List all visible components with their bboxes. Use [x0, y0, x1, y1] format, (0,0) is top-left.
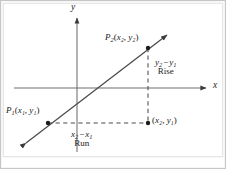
run-term-a-subscript: 2: [75, 133, 78, 140]
point-p2-label: P2(x₂, y₂): [105, 33, 138, 42]
secant-line: [26, 35, 167, 143]
run-term-b-subscript: 1: [89, 133, 92, 140]
point-p1-subscript: 1: [12, 109, 15, 116]
run-word: Run: [71, 139, 92, 148]
point-p2-base: P: [105, 32, 111, 42]
x-axis-label: x: [213, 81, 217, 91]
rise-term-a-subscript: 2: [159, 61, 162, 68]
point-p1-dot: [46, 121, 50, 125]
point-right-angle-corner-dot: [146, 121, 150, 125]
point-p1-coord-x: x₁: [18, 105, 25, 115]
run-annotation: x2−x1 Run: [71, 130, 92, 149]
point-p2-coord-x: x₂: [117, 32, 124, 42]
point-p1-close-paren: ): [36, 105, 39, 115]
rise-annotation: y2−y1 Rise: [155, 58, 176, 77]
figure-frame-rect: [1, 1, 226, 169]
point-p1-label: P1(x₁, y₁): [6, 106, 39, 115]
point-right-angle-corner-label: (x₂, y₁): [152, 116, 177, 125]
slope-diagram-figure: y x P2(x₂, y₂) P1(x₁, y₁) (x₂, y₁) y2−y1…: [0, 0, 226, 169]
rise-term-b-subscript: 1: [173, 61, 176, 68]
y-axis-label: y: [71, 3, 75, 13]
slope-diagram-canvas: [0, 0, 226, 169]
point-p2-dot: [146, 46, 150, 50]
rise-word: Rise: [155, 67, 176, 76]
corner-close-paren: ): [174, 115, 177, 125]
point-p2-subscript: 2: [111, 36, 114, 43]
point-p2-close-paren: ): [135, 32, 138, 42]
figure-frame-inner-rect: [3, 3, 223, 157]
corner-coord-y: y₁: [167, 115, 174, 125]
point-p1-base: P: [6, 105, 12, 115]
